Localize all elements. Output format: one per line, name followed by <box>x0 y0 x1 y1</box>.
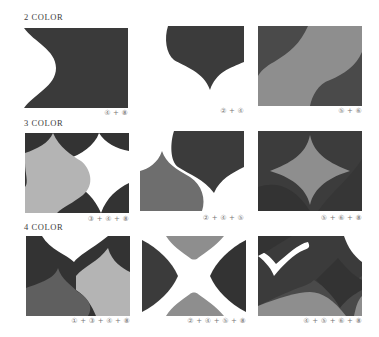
swatch-pattern <box>258 26 362 106</box>
pattern-tile-4color-3 <box>258 236 362 316</box>
pattern-tile-2color-2 <box>140 26 244 106</box>
section-title-2-color: 2 COLOR <box>24 12 63 22</box>
color-code-caption: ④ + ⑧ <box>24 109 128 117</box>
pattern-tile-3color-2 <box>140 131 244 211</box>
swatch-pattern <box>140 131 244 211</box>
swatch-pattern <box>25 133 129 213</box>
section-title-4-color: 4 COLOR <box>24 222 63 232</box>
color-code-caption: ⑤ + ⑥ <box>258 107 362 115</box>
pattern-tile-4color-2 <box>142 236 246 316</box>
swatch-pattern <box>142 236 246 316</box>
swatch-pattern <box>258 236 362 316</box>
color-code-caption: ③ + ④ + ⑧ <box>25 215 129 223</box>
color-code-caption: ④ + ⑤ + ⑥ + ⑧ <box>258 317 362 325</box>
pattern-tile-2color-1 <box>24 28 128 108</box>
pattern-tile-3color-1 <box>25 133 129 213</box>
swatch-pattern <box>26 236 130 316</box>
pattern-tile-3color-3 <box>258 131 362 211</box>
pattern-tile-2color-3 <box>258 26 362 106</box>
color-code-caption: ② + ④ <box>140 107 244 115</box>
color-code-caption: ② + ④ + ⑤ <box>140 214 244 222</box>
color-code-caption: ② + ④ + ⑤ + ⑧ <box>142 317 246 325</box>
swatch-pattern <box>24 28 128 108</box>
color-code-caption: ⑤ + ⑥ + ⑧ <box>258 214 362 222</box>
pattern-tile-4color-1 <box>26 236 130 316</box>
color-code-caption: ① + ③ + ④ + ⑧ <box>26 317 130 325</box>
swatch-pattern <box>140 26 244 106</box>
swatch-pattern <box>258 131 362 211</box>
section-title-3-color: 3 COLOR <box>24 118 63 128</box>
